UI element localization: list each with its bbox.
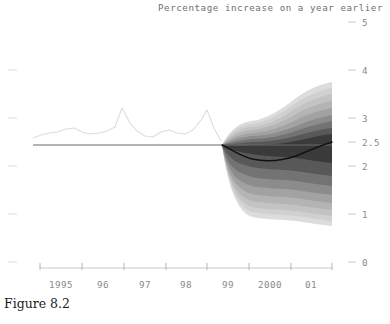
fan-chart-plot xyxy=(0,0,390,324)
historical-inflation-line xyxy=(33,108,221,141)
x-axis-label-1995: 1995 xyxy=(37,279,85,290)
y-axis-label-0: 0 xyxy=(362,257,368,268)
figure-caption: Figure 8.2 xyxy=(4,296,70,311)
y-axis-label-1: 1 xyxy=(362,209,368,220)
x-axis-label-01: 01 xyxy=(287,279,335,290)
y-axis-label-2: 2 xyxy=(362,161,368,172)
x-axis-label-99: 99 xyxy=(204,279,252,290)
y-axis-label-2-5: 2.5 xyxy=(362,137,380,148)
y-axis-label-5: 5 xyxy=(362,17,368,28)
x-axis-label-98: 98 xyxy=(162,279,210,290)
y-axis-label-3: 3 xyxy=(362,113,368,124)
figure-container: Percentage increase on a year earlier xyxy=(0,0,390,324)
y-axis-label-4: 4 xyxy=(362,65,368,76)
left-axis-ticks xyxy=(8,70,17,262)
x-axis-label-96: 96 xyxy=(79,279,127,290)
right-axis-ticks xyxy=(348,22,356,262)
x-axis-ticks xyxy=(40,263,332,270)
